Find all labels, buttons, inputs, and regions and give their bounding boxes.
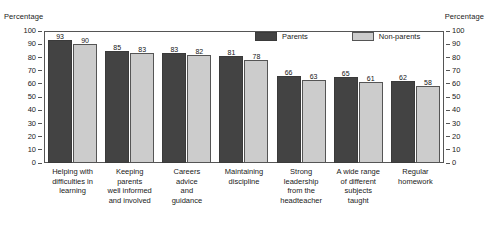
category-label: Careersadviceandguidance: [158, 167, 215, 205]
axis-tick-label: 10: [28, 146, 36, 154]
axis-tick-label: 80: [452, 54, 460, 62]
category-label-line: and: [158, 186, 215, 196]
bar-group: 8178: [215, 31, 272, 163]
category-label-line: Maintaining: [215, 167, 272, 177]
axis-tick-mark: [446, 97, 450, 98]
axis-tick-label: 60: [28, 80, 36, 88]
axis-tick-label: 100: [23, 27, 36, 35]
category-label: A wide rangeof differentsubjectstaught: [330, 167, 387, 205]
bar-value-label: 82: [195, 48, 203, 55]
axis-tick-mark: [446, 163, 450, 164]
axis-tick-mark: [446, 31, 450, 32]
legend-item-parents[interactable]: Parents: [255, 32, 308, 41]
right-axis-ticks: 0102030405060708090100: [446, 31, 484, 163]
category-label-line: Helping with: [44, 167, 101, 177]
axis-tick-label: 20: [452, 133, 460, 141]
category-label: Regularhomework: [387, 167, 444, 186]
bar-value-label: 85: [113, 44, 121, 51]
bar-parents[interactable]: 65: [334, 77, 358, 163]
bar-value-label: 81: [228, 49, 236, 56]
chart-legend: ParentsNon-parents: [255, 32, 420, 41]
bar-group: 8583: [101, 31, 158, 163]
bar-nonparents[interactable]: 83: [130, 53, 154, 163]
bar-group: 6561: [330, 31, 387, 163]
category-label-line: taught: [330, 196, 387, 206]
category-label-line: advice: [158, 177, 215, 187]
category-label-line: guidance: [158, 196, 215, 206]
axis-tick-mark: [38, 31, 42, 32]
category-label-line: difficulties in: [44, 177, 101, 187]
bar-value-label: 62: [399, 74, 407, 81]
axis-tick-mark: [446, 136, 450, 137]
axis-tick-mark: [38, 136, 42, 137]
axis-tick-mark: [446, 123, 450, 124]
bar-nonparents[interactable]: 78: [244, 60, 268, 163]
bar-parents[interactable]: 93: [48, 40, 72, 163]
bar-parents[interactable]: 83: [162, 53, 186, 163]
axis-tick-label: 80: [28, 54, 36, 62]
category-label-line: and involved: [101, 196, 158, 206]
bar-value-label: 61: [367, 75, 375, 82]
category-label-line: Regular: [387, 167, 444, 177]
axis-tick-label: 0: [452, 159, 456, 167]
bar-nonparents[interactable]: 63: [302, 80, 326, 163]
axis-tick-mark: [38, 163, 42, 164]
category-label-line: headteacher: [273, 196, 330, 206]
category-label-line: homework: [387, 177, 444, 187]
bar-value-label: 66: [285, 69, 293, 76]
axis-tick-label: 40: [452, 106, 460, 114]
category-label-line: learning: [44, 186, 101, 196]
axis-tick-mark: [446, 110, 450, 111]
bar-nonparents[interactable]: 61: [359, 82, 383, 163]
bar-parents[interactable]: 85: [105, 51, 129, 163]
axis-tick-label: 70: [452, 67, 460, 75]
category-label: Strongleadershipfrom theheadteacher: [273, 167, 330, 205]
axis-tick-mark: [446, 149, 450, 150]
axis-tick-label: 10: [452, 146, 460, 154]
axis-tick-mark: [38, 70, 42, 71]
axis-tick-mark: [446, 44, 450, 45]
axis-tick-label: 20: [28, 133, 36, 141]
axis-tick-mark: [446, 57, 450, 58]
category-label-line: subjects: [330, 186, 387, 196]
axis-tick-label: 30: [452, 120, 460, 128]
category-label-line: A wide range: [330, 167, 387, 177]
bar-group: 6663: [273, 31, 330, 163]
bar-parents[interactable]: 62: [391, 81, 415, 163]
axis-tick-label: 50: [452, 93, 460, 101]
legend-label: Parents: [282, 33, 308, 41]
axis-tick-label: 100: [452, 27, 465, 35]
bar-value-label: 63: [310, 73, 318, 80]
axis-tick-label: 40: [28, 106, 36, 114]
bar-parents[interactable]: 66: [277, 76, 301, 163]
bar-nonparents[interactable]: 90: [73, 44, 97, 163]
left-axis-ticks: 0102030405060708090100: [4, 31, 42, 163]
bar-parents[interactable]: 81: [219, 56, 243, 163]
legend-swatch-icon: [255, 32, 277, 41]
axis-tick-label: 30: [28, 120, 36, 128]
axis-tick-mark: [38, 44, 42, 45]
bar-value-label: 83: [170, 46, 178, 53]
category-label-line: well informed: [101, 186, 158, 196]
axis-tick-label: 90: [452, 40, 460, 48]
axis-tick-mark: [38, 83, 42, 84]
axis-tick-mark: [38, 97, 42, 98]
axis-tick-label: 70: [28, 67, 36, 75]
bar-group: 9390: [44, 31, 101, 163]
bar-value-label: 93: [56, 33, 64, 40]
bar-group: 8382: [158, 31, 215, 163]
category-label: Helping withdifficulties inlearning: [44, 167, 101, 196]
axis-tick-label: 50: [28, 93, 36, 101]
category-label-line: parents: [101, 177, 158, 187]
legend-item-non-parents[interactable]: Non-parents: [352, 32, 420, 41]
bar-nonparents[interactable]: 82: [187, 55, 211, 163]
category-label-line: leadership: [273, 177, 330, 187]
bar-value-label: 90: [81, 37, 89, 44]
category-label-line: Strong: [273, 167, 330, 177]
axis-tick-mark: [38, 110, 42, 111]
bar-nonparents[interactable]: 58: [416, 86, 440, 163]
legend-label: Non-parents: [379, 33, 420, 41]
bar-value-label: 83: [138, 46, 146, 53]
bar-value-label: 65: [342, 70, 350, 77]
bar-value-label: 78: [253, 53, 261, 60]
